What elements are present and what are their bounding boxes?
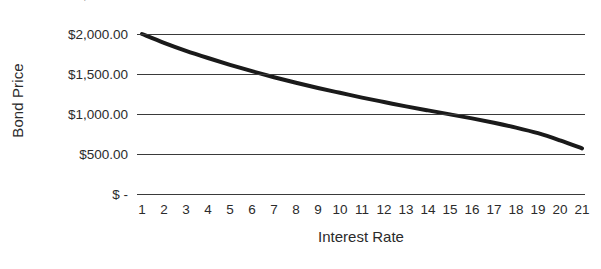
y-tick-label: $ -	[112, 187, 128, 202]
x-tick-label: 12	[376, 202, 391, 217]
x-tick-label: 11	[355, 202, 369, 217]
bond-price-chart: Bond Price $2,500.00$2,000.00$1,500.00$1…	[0, 0, 601, 269]
gridline	[137, 34, 585, 35]
x-tick-label: 21	[574, 202, 589, 217]
x-tick-label: 13	[398, 202, 413, 217]
y-tick-label: $1,500.00	[68, 67, 128, 82]
y-axis-title: Bond Price	[0, 0, 34, 200]
x-axis-tick-labels: 123456789101112131415161718192021	[137, 202, 585, 224]
x-tick-label: 19	[530, 202, 545, 217]
line-series-svg	[137, 0, 585, 200]
x-tick-label: 10	[332, 202, 347, 217]
x-tick-label: 3	[182, 202, 190, 217]
x-tick-label: 4	[204, 202, 212, 217]
x-tick-label: 14	[420, 202, 435, 217]
x-tick-label: 16	[464, 202, 479, 217]
x-axis-title: Interest Rate	[137, 228, 585, 245]
x-tick-label: 18	[508, 202, 523, 217]
x-tick-label: 5	[226, 202, 234, 217]
y-tick-label: $2,000.00	[68, 27, 128, 42]
gridline	[137, 154, 585, 155]
y-tick-label: $1,000.00	[68, 107, 128, 122]
x-tick-label: 7	[270, 202, 278, 217]
x-tick-label: 1	[138, 202, 146, 217]
x-tick-label: 8	[292, 202, 300, 217]
x-tick-label: 2	[160, 202, 168, 217]
y-tick-label: $500.00	[79, 147, 128, 162]
x-tick-label: 17	[486, 202, 501, 217]
y-tick-label: $2,500.00	[68, 0, 128, 2]
gridline	[137, 194, 585, 195]
gridline	[137, 114, 585, 115]
gridline	[137, 74, 585, 75]
y-axis-tick-labels: $2,500.00$2,000.00$1,500.00$1,000.00$500…	[34, 0, 132, 200]
plot-area	[137, 0, 585, 200]
x-tick-label: 15	[442, 202, 457, 217]
bond-price-line	[142, 34, 582, 148]
x-tick-label: 20	[552, 202, 567, 217]
x-tick-label: 9	[314, 202, 322, 217]
y-axis-title-label: Bond Price	[9, 63, 26, 137]
x-tick-label: 6	[248, 202, 256, 217]
